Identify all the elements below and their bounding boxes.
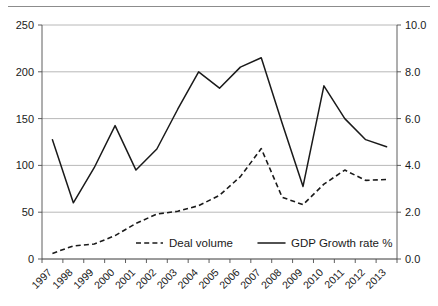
legend-label: GDP Growth rate %	[291, 237, 392, 249]
x-axis-tick-label: 2006	[217, 266, 242, 291]
legend-label: Deal volume	[169, 237, 233, 249]
x-axis-tick-label: 2008	[259, 266, 284, 291]
x-axis-tick-label: 1999	[71, 266, 96, 291]
secondary-y-axis-tick-label: 8.0	[405, 66, 420, 78]
x-axis-tick-label: 2012	[342, 266, 367, 291]
x-axis-tick-label: 2002	[133, 266, 158, 291]
axes	[42, 25, 397, 259]
x-axis-tick-label: 1997	[29, 266, 54, 291]
chart-figure: 050100150200250 0.02.04.06.08.010.0 1997…	[0, 0, 438, 306]
secondary-y-axis-tick-label: 2.0	[405, 206, 420, 218]
y-axis-tick-label: 0	[28, 253, 34, 265]
y-axis-tick-label: 100	[16, 159, 34, 171]
secondary-y-axis-tick-label: 10.0	[405, 19, 426, 31]
x-axis-tick-label: 2005	[196, 266, 221, 291]
gridlines	[42, 25, 397, 259]
y-axis-tick-label: 200	[16, 66, 34, 78]
x-axis-tick-label: 2000	[91, 266, 116, 291]
axis-tickmarks	[38, 25, 401, 263]
y-axis-tick-labels: 050100150200250	[16, 19, 34, 265]
y-axis-tick-label: 150	[16, 113, 34, 125]
x-axis-tick-label: 2009	[279, 266, 304, 291]
x-axis-tick-label: 2004	[175, 266, 200, 291]
chart-legend: Deal volumeGDP Growth rate %	[136, 237, 392, 249]
secondary-y-axis-tick-labels: 0.02.04.06.08.010.0	[405, 19, 426, 265]
y-axis-tick-label: 250	[16, 19, 34, 31]
secondary-y-axis-tick-label: 4.0	[405, 159, 420, 171]
data-series	[52, 58, 386, 254]
y-axis-tick-label: 50	[22, 206, 34, 218]
series-line-gdp-growth-rate	[52, 58, 386, 203]
x-axis-tick-label: 2001	[112, 266, 137, 291]
x-axis-tick-label: 1998	[50, 266, 75, 291]
x-axis-tick-label: 2010	[300, 266, 325, 291]
x-axis-tick-label: 2013	[363, 266, 388, 291]
line-chart: 050100150200250 0.02.04.06.08.010.0 1997…	[0, 0, 438, 306]
secondary-y-axis-tick-label: 6.0	[405, 113, 420, 125]
x-axis-tick-labels: 1997199819992000200120022003200420052006…	[29, 266, 388, 291]
x-axis-tick-label: 2003	[154, 266, 179, 291]
x-axis-tick-label: 2007	[238, 266, 263, 291]
x-axis-tick-label: 2011	[322, 266, 347, 291]
secondary-y-axis-tick-label: 0.0	[405, 253, 420, 265]
